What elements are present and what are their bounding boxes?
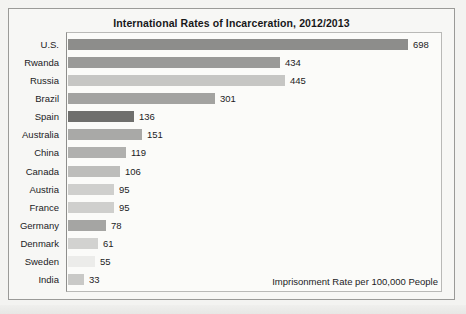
bar-track: 151 bbox=[66, 127, 456, 143]
bar-track: 698 bbox=[66, 36, 456, 52]
bar bbox=[68, 220, 106, 231]
bar-row: China 119 bbox=[9, 145, 456, 161]
bar-value-label: 698 bbox=[408, 39, 429, 50]
bar-value-label: 95 bbox=[114, 202, 130, 213]
bar-track: 78 bbox=[66, 217, 456, 233]
x-axis-caption: Imprisonment Rate per 100,000 People bbox=[272, 276, 438, 287]
category-label: Russia bbox=[9, 75, 66, 86]
bar bbox=[68, 202, 114, 213]
bar-value-label: 61 bbox=[98, 238, 114, 249]
category-label: Brazil bbox=[9, 93, 66, 104]
category-label: India bbox=[9, 274, 66, 285]
bar-track: 61 bbox=[66, 236, 456, 252]
bar-rows: U.S. 698 Rwanda 434 Russia 445 Brazil bbox=[9, 32, 456, 292]
bar bbox=[68, 93, 215, 104]
bar bbox=[68, 166, 120, 177]
bar-value-label: 33 bbox=[84, 274, 100, 285]
bar-value-label: 78 bbox=[106, 220, 122, 231]
bar-value-label: 106 bbox=[120, 166, 141, 177]
bar-row: Germany 78 bbox=[9, 217, 456, 233]
bar-row: Spain 136 bbox=[9, 109, 456, 125]
bar-value-label: 434 bbox=[280, 57, 301, 68]
chart-title: International Rates of Incarceration, 20… bbox=[9, 17, 454, 29]
bar-value-label: 151 bbox=[142, 129, 163, 140]
bar-row: France 95 bbox=[9, 199, 456, 215]
bar-row: U.S. 698 bbox=[9, 36, 456, 52]
bar-track: 119 bbox=[66, 145, 456, 161]
bar-row: Austria 95 bbox=[9, 181, 456, 197]
bar-track: 95 bbox=[66, 199, 456, 215]
category-label: U.S. bbox=[9, 39, 66, 50]
bar-track: 106 bbox=[66, 163, 456, 179]
chart-figure: International Rates of Incarceration, 20… bbox=[8, 8, 455, 300]
bar-track: 55 bbox=[66, 254, 456, 270]
bar-row: Canada 106 bbox=[9, 163, 456, 179]
bar bbox=[68, 274, 84, 285]
bar-track: 445 bbox=[66, 72, 456, 88]
category-label: Rwanda bbox=[9, 57, 66, 68]
bar-value-label: 136 bbox=[134, 111, 155, 122]
bar bbox=[68, 184, 114, 195]
category-label: Sweden bbox=[9, 256, 66, 267]
bar bbox=[68, 111, 134, 122]
bar-value-label: 119 bbox=[126, 147, 146, 158]
bar bbox=[68, 256, 95, 267]
bar-row: Denmark 61 bbox=[9, 236, 456, 252]
category-label: Australia bbox=[9, 129, 66, 140]
bar-row: Brazil 301 bbox=[9, 90, 456, 106]
bar bbox=[68, 39, 408, 50]
bar-row: Sweden 55 bbox=[9, 254, 456, 270]
page-bottom-edge bbox=[0, 305, 466, 314]
bar bbox=[68, 147, 126, 158]
category-label: Austria bbox=[9, 184, 66, 195]
bar bbox=[68, 129, 142, 140]
category-label: Spain bbox=[9, 111, 66, 122]
bar bbox=[68, 238, 98, 249]
bar-value-label: 55 bbox=[95, 256, 111, 267]
category-label: France bbox=[9, 202, 66, 213]
bar-row: Russia 445 bbox=[9, 72, 456, 88]
category-label: Denmark bbox=[9, 238, 66, 249]
category-label: China bbox=[9, 147, 66, 158]
bar-row: Rwanda 434 bbox=[9, 54, 456, 70]
bar-track: 301 bbox=[66, 90, 456, 106]
bar-track: 95 bbox=[66, 181, 456, 197]
bar-value-label: 95 bbox=[114, 184, 130, 195]
bar bbox=[68, 57, 280, 68]
bar-value-label: 445 bbox=[285, 75, 306, 86]
bar bbox=[68, 75, 285, 86]
bar-track: 434 bbox=[66, 54, 456, 70]
bar-row: Australia 151 bbox=[9, 127, 456, 143]
bar-track: 136 bbox=[66, 109, 456, 125]
bar-value-label: 301 bbox=[215, 93, 236, 104]
category-label: Germany bbox=[9, 220, 66, 231]
category-label: Canada bbox=[9, 166, 66, 177]
